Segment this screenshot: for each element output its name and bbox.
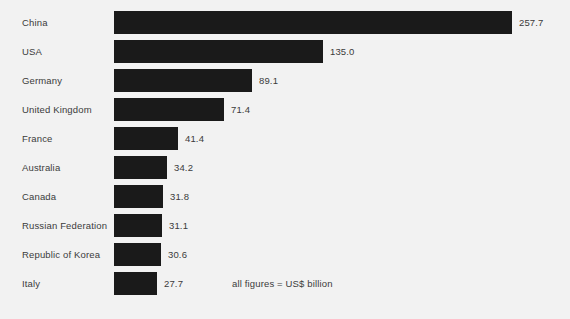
category-label: Canada <box>22 185 56 208</box>
category-label: United Kingdom <box>22 98 92 121</box>
category-label: USA <box>22 40 42 63</box>
bar-italy <box>114 272 157 295</box>
bar-united-kingdom <box>114 98 224 121</box>
category-label: Republic of Korea <box>22 243 100 266</box>
bar-row: China 257.7 <box>0 11 570 34</box>
bar-row: USA 135.0 <box>0 40 570 63</box>
category-label: France <box>22 127 52 150</box>
value-label: 41.4 <box>185 127 204 150</box>
bar-france <box>114 127 178 150</box>
category-label: Australia <box>22 156 60 179</box>
category-label: Russian Federation <box>22 214 107 237</box>
bar-chart: China 257.7 USA 135.0 Germany 89.1 Unite… <box>0 0 570 319</box>
category-label: China <box>22 11 48 34</box>
bar-russian-federation <box>114 214 162 237</box>
bar-germany <box>114 69 252 92</box>
unit-note: all figures = US$ billion <box>232 272 333 295</box>
bar-china <box>114 11 512 34</box>
bar-row: Russian Federation 31.1 <box>0 214 570 237</box>
value-label: 257.7 <box>519 11 544 34</box>
bar-row: France 41.4 <box>0 127 570 150</box>
bar-row: Canada 31.8 <box>0 185 570 208</box>
bar-australia <box>114 156 167 179</box>
value-label: 31.8 <box>170 185 189 208</box>
bar-row: United Kingdom 71.4 <box>0 98 570 121</box>
value-label: 34.2 <box>174 156 193 179</box>
bar-canada <box>114 185 163 208</box>
value-label: 30.6 <box>168 243 187 266</box>
bar-row: Germany 89.1 <box>0 69 570 92</box>
category-label: Italy <box>22 272 40 295</box>
plot-area: China 257.7 USA 135.0 Germany 89.1 Unite… <box>0 0 570 319</box>
bar-republic-of-korea <box>114 243 161 266</box>
value-label: 27.7 <box>164 272 183 295</box>
value-label: 31.1 <box>169 214 188 237</box>
bar-row: Australia 34.2 <box>0 156 570 179</box>
value-label: 71.4 <box>231 98 250 121</box>
value-label: 89.1 <box>259 69 278 92</box>
bar-row: Republic of Korea 30.6 <box>0 243 570 266</box>
category-label: Germany <box>22 69 62 92</box>
value-label: 135.0 <box>330 40 355 63</box>
bar-usa <box>114 40 323 63</box>
